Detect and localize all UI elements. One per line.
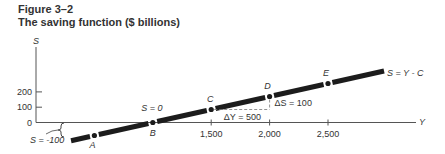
saving-function-chart: SY01002001,5002,0002,500ABCDES = -100S =…: [0, 0, 445, 154]
leader-line: [46, 130, 58, 134]
annotation-s-minus-100: S = -100: [30, 135, 64, 145]
annotation-delta-y: ΔY = 500: [224, 112, 261, 122]
y-tick-label: 100: [17, 102, 32, 112]
y-tick-label: 200: [17, 87, 32, 97]
point-label-e: E: [323, 68, 330, 78]
x-tick-label: 1,500: [200, 129, 223, 139]
point-label-c: C: [207, 94, 214, 104]
x-tick-label: 2,500: [317, 129, 340, 139]
x-axis-label: Y: [419, 117, 426, 127]
point-e: [325, 81, 330, 86]
point-a: [92, 133, 97, 138]
y-tick-label: 0: [27, 118, 32, 128]
y-axis-label: S: [33, 36, 39, 46]
saving-line-segment: [99, 123, 149, 134]
x-tick-label: 2,000: [258, 129, 281, 139]
saving-line-segment: [157, 110, 207, 121]
annotation-delta-s: ΔS = 100: [275, 98, 312, 108]
saving-line-segment: [71, 136, 90, 140]
point-label-b: B: [150, 128, 156, 138]
point-b: [150, 120, 155, 125]
point-label-d: D: [264, 81, 271, 91]
annotation-s-zero: S = 0: [141, 103, 162, 113]
saving-line-segment: [332, 71, 384, 83]
point-c: [209, 107, 214, 112]
point-label-a: A: [88, 140, 95, 150]
point-d: [267, 94, 272, 99]
line-label: S = Y - C: [387, 68, 424, 78]
saving-line-segment: [216, 97, 266, 108]
saving-line-segment: [274, 84, 324, 95]
